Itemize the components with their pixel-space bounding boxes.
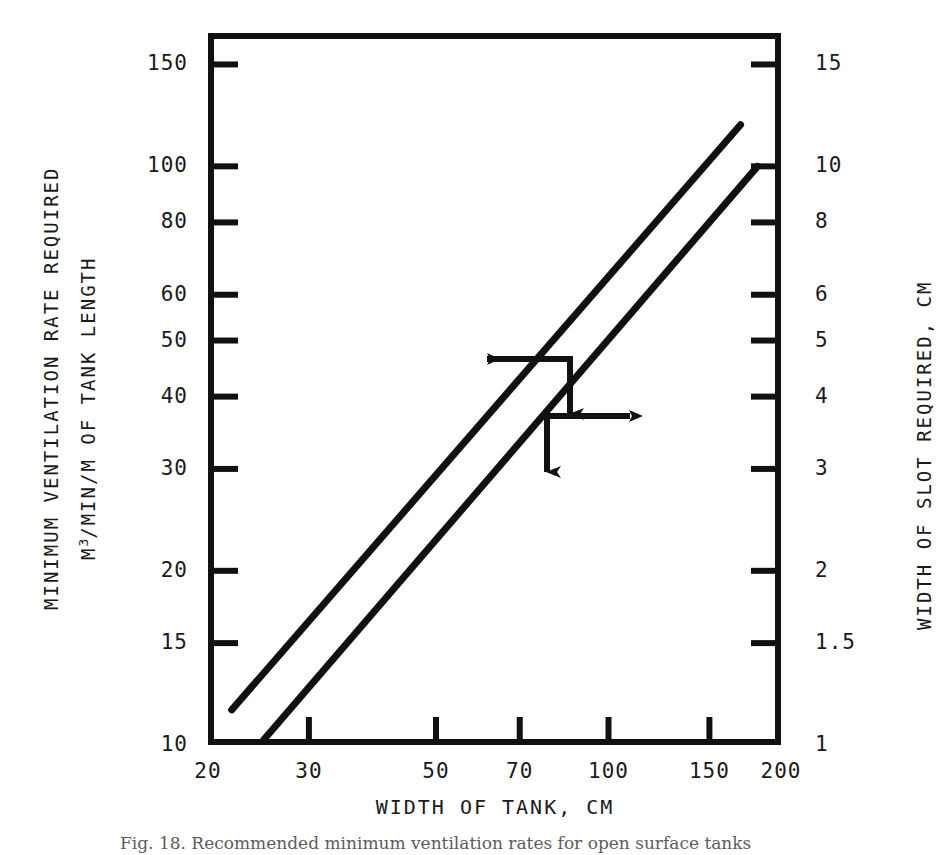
x-axis-title: WIDTH OF TANK, CM: [295, 797, 695, 817]
left-tick-label-2: 80: [78, 211, 188, 232]
y2-axis-title: WIDTH OF SLOT REQUIRED, CM: [915, 281, 934, 630]
bottom-tick-label-4: 100: [569, 761, 649, 782]
y-axis-title-line1-text: MINIMUM VENTILATION RATE REQUIRED: [40, 167, 62, 611]
right-tick-label-0: 15: [815, 53, 925, 74]
figure-caption-text: Fig. 18. Recommended minimum ventilation…: [120, 833, 751, 853]
unit-m: M: [77, 547, 99, 560]
y-axis-title-line2-text: M3/MIN/M OF TANK LENGTH: [77, 257, 99, 560]
right-tick-label-9: 1: [815, 734, 925, 755]
left-tick-label-1: 100: [78, 155, 188, 176]
left-tick-label-7: 20: [78, 560, 188, 581]
right-tick-label-5: 4: [815, 386, 925, 407]
left-tick-label-8: 15: [78, 632, 188, 653]
left-tick-label-0: 150: [78, 53, 188, 74]
bottom-tick-label-2: 50: [396, 761, 476, 782]
y-axis-title-line1: MINIMUM VENTILATION RATE REQUIRED: [42, 167, 61, 611]
bottom-tick-label-5: 150: [669, 761, 749, 782]
bottom-tick-label-6: 200: [741, 761, 821, 782]
figure-caption: Fig. 18. Recommended minimum ventilation…: [120, 832, 920, 855]
bottom-tick-label-1: 30: [269, 761, 349, 782]
unit-rest: /MIN/M OF TANK LENGTH: [77, 257, 99, 539]
bottom-tick-label-0: 20: [168, 761, 248, 782]
y-axis-title-line2: M3/MIN/M OF TANK LENGTH: [78, 257, 98, 560]
plot-frame: [208, 33, 781, 745]
x-axis-title-text: WIDTH OF TANK, CM: [376, 795, 615, 819]
right-tick-label-7: 2: [815, 560, 925, 581]
right-tick-label-4: 5: [815, 330, 925, 351]
left-tick-label-9: 10: [78, 734, 188, 755]
right-tick-label-2: 8: [815, 211, 925, 232]
right-tick-label-3: 6: [815, 284, 925, 305]
right-tick-label-1: 10: [815, 155, 925, 176]
y2-axis-title-text: WIDTH OF SLOT REQUIRED, CM: [913, 281, 935, 630]
bottom-tick-label-3: 70: [480, 761, 560, 782]
unit-exponent: 3: [76, 539, 91, 547]
right-tick-label-8: 1.5: [815, 632, 925, 653]
right-tick-label-6: 3: [815, 458, 925, 479]
